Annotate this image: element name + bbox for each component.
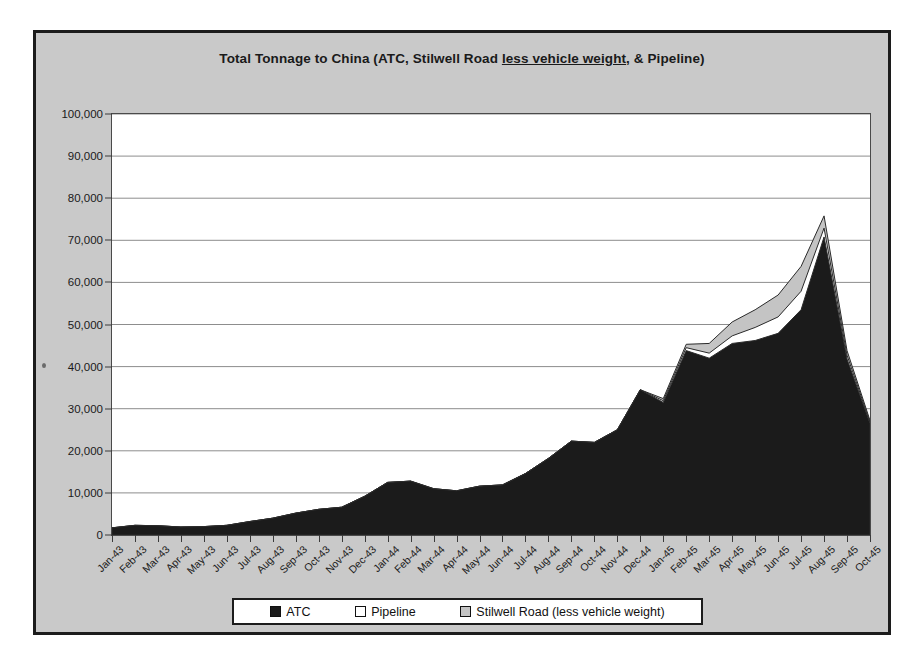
x-axis-tick-mark (227, 535, 228, 542)
legend-swatch-icon (460, 606, 471, 617)
x-axis-tick-mark (594, 535, 595, 542)
legend-label: Pipeline (371, 605, 415, 619)
y-axis-tick-mark (105, 114, 112, 115)
x-axis-tick-mark (319, 535, 320, 542)
x-axis-tick-mark (250, 535, 251, 542)
x-axis-tick-mark (617, 535, 618, 542)
x-axis-tick-mark (824, 535, 825, 542)
chart-frame: Total Tonnage to China (ATC, Stilwell Ro… (33, 30, 891, 635)
x-axis-tick-mark (663, 535, 664, 542)
legend-item[interactable]: ATC (270, 605, 310, 619)
y-axis-tick-mark (105, 240, 112, 241)
x-axis-tick-mark (388, 535, 389, 542)
x-axis-tick-mark (411, 535, 412, 542)
legend-item[interactable]: Stilwell Road (less vehicle weight) (460, 605, 664, 619)
area-series-atc (112, 237, 870, 535)
x-axis-tick-mark (457, 535, 458, 542)
y-axis-tick-mark (105, 535, 112, 536)
x-axis-tick-mark (480, 535, 481, 542)
x-axis-tick-mark (434, 535, 435, 542)
x-axis-tick-mark (296, 535, 297, 542)
y-axis-tick-mark (105, 324, 112, 325)
y-axis-tick-mark (105, 408, 112, 409)
scan-speck (42, 363, 46, 368)
screenshot-page: Total Tonnage to China (ATC, Stilwell Ro… (0, 0, 924, 668)
x-axis-tick-mark (525, 535, 526, 542)
legend-label: Stilwell Road (less vehicle weight) (476, 605, 664, 619)
legend-swatch-icon (355, 606, 366, 617)
legend-item[interactable]: Pipeline (355, 605, 415, 619)
y-axis-tick-mark (105, 492, 112, 493)
x-axis-tick-mark (686, 535, 687, 542)
x-axis-tick-mark (801, 535, 802, 542)
x-axis-tick-mark (181, 535, 182, 542)
x-axis-tick-mark (365, 535, 366, 542)
x-axis-tick-mark (709, 535, 710, 542)
y-axis-tick-mark (105, 198, 112, 199)
x-axis-tick-mark (135, 535, 136, 542)
chart-title-after: , & Pipeline) (626, 51, 705, 66)
chart-title-before: Total Tonnage to China (ATC, Stilwell Ro… (219, 51, 502, 66)
legend-label: ATC (286, 605, 310, 619)
y-axis-tick-mark (105, 156, 112, 157)
x-axis-tick-mark (502, 535, 503, 542)
plot-clip (112, 114, 870, 535)
x-axis-tick-mark (870, 535, 871, 542)
chart-legend: ATCPipelineStilwell Road (less vehicle w… (232, 598, 703, 625)
x-axis-tick-mark (548, 535, 549, 542)
x-axis-tick-mark (571, 535, 572, 542)
x-axis-tick-mark (778, 535, 779, 542)
chart-title-underlined: less vehicle weight (502, 51, 626, 66)
x-axis-tick-mark (342, 535, 343, 542)
area-chart-svg (112, 114, 870, 535)
chart-background: Total Tonnage to China (ATC, Stilwell Ro… (36, 33, 888, 632)
x-axis-tick-mark (732, 535, 733, 542)
x-axis-tick-mark (273, 535, 274, 542)
chart-title: Total Tonnage to China (ATC, Stilwell Ro… (36, 51, 888, 66)
x-axis-tick-mark (158, 535, 159, 542)
x-axis-tick-mark (204, 535, 205, 542)
x-axis-tick-mark (640, 535, 641, 542)
x-axis-tick-mark (112, 535, 113, 542)
y-axis-tick-mark (105, 366, 112, 367)
y-axis-tick-mark (105, 450, 112, 451)
x-axis-tick-mark (847, 535, 848, 542)
x-axis-tick-mark (755, 535, 756, 542)
plot-area: 010,00020,00030,00040,00050,00060,00070,… (111, 113, 871, 536)
y-axis-tick-mark (105, 282, 112, 283)
legend-swatch-icon (270, 606, 281, 617)
